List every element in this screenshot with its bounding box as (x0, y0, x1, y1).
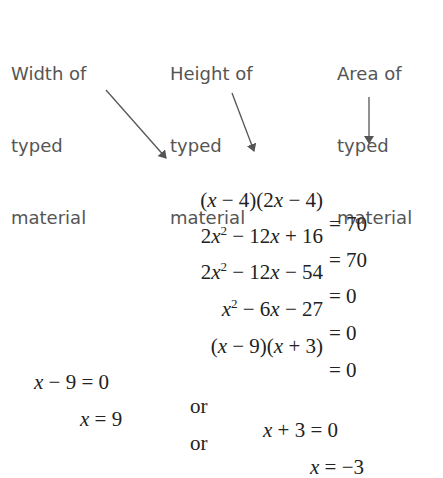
arrow-width-icon (106, 90, 166, 158)
solution-line-2: x = 9 or x = −3 (0, 383, 443, 478)
arrow-height-icon (232, 93, 254, 151)
solution-left: x = 9 (80, 407, 122, 431)
solution-connector: or (190, 431, 208, 455)
solution-right: x = −3 (310, 455, 364, 478)
